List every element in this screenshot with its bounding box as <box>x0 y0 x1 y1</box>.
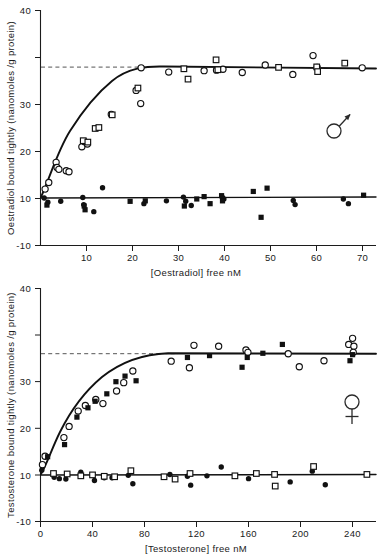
data-point <box>57 476 62 481</box>
x-tick-label: 120 <box>188 528 205 539</box>
data-point <box>201 68 207 74</box>
data-point <box>191 342 197 348</box>
testosterone-chart-svg: 40 30 20 10 -10 0 40 80 120 1 <box>0 280 389 557</box>
data-point <box>56 166 62 172</box>
data-point <box>113 388 119 394</box>
data-point <box>347 358 352 363</box>
data-point <box>213 57 219 63</box>
data-point <box>80 195 85 200</box>
x-tick-label: 240 <box>344 528 361 539</box>
data-point <box>276 65 282 71</box>
data-point <box>51 471 57 477</box>
data-point <box>168 358 174 364</box>
data-point <box>135 85 141 91</box>
x-axis-label: [Oestradiol] free nM <box>151 267 241 278</box>
data-point <box>78 473 84 479</box>
data-point <box>220 198 225 203</box>
data-point <box>259 215 264 220</box>
data-point <box>100 185 105 190</box>
data-point <box>245 355 250 360</box>
data-point <box>44 202 49 207</box>
x-tick-label: 80 <box>139 528 150 539</box>
data-point <box>280 342 285 347</box>
y-tick-label: 40 <box>20 5 31 16</box>
chart-panel-testosterone: 40 30 20 10 -10 0 40 80 120 1 <box>0 280 389 557</box>
data-point <box>239 69 245 75</box>
y-axis-tick-labels: 40 30 20 10 -10 <box>16 5 31 251</box>
data-point <box>100 401 106 407</box>
data-point <box>359 65 365 71</box>
data-point <box>361 193 366 198</box>
data-point <box>143 198 148 203</box>
series-filled-square <box>45 342 355 460</box>
data-point <box>41 195 46 200</box>
data-point <box>350 352 355 357</box>
x-tick-label: 10 <box>81 252 92 263</box>
data-point <box>64 471 70 477</box>
data-point <box>91 209 96 214</box>
data-point <box>202 194 207 199</box>
data-point <box>182 203 187 208</box>
y-axis-label: Testosterone bound tightly (nanomoles /g… <box>5 292 16 518</box>
data-point <box>351 343 357 349</box>
data-point <box>245 349 251 355</box>
x-axis-tick-labels: 0 40 80 120 160 200 240 <box>38 528 361 539</box>
data-point <box>164 198 169 203</box>
series-open-circle <box>39 335 357 467</box>
data-point <box>121 380 127 386</box>
data-point <box>219 464 224 469</box>
data-point <box>239 365 244 370</box>
x-axis-tick-labels: 10 20 30 40 50 60 70 <box>81 252 368 263</box>
axis-lines <box>41 10 377 246</box>
x-tick-label: 20 <box>127 252 138 263</box>
y-tick-label: 30 <box>20 376 31 387</box>
male-sex-symbol <box>327 114 351 138</box>
data-point <box>260 351 265 356</box>
data-point <box>85 139 91 145</box>
x-tick-label: 160 <box>240 528 257 539</box>
data-point <box>310 53 316 59</box>
data-point <box>219 193 224 198</box>
data-point <box>42 186 48 192</box>
data-point <box>113 379 118 384</box>
data-points-group <box>39 335 370 489</box>
data-point <box>207 353 212 358</box>
female-sex-symbol <box>345 395 359 424</box>
data-point <box>189 203 194 208</box>
y-tick-label: 20 <box>20 146 31 157</box>
data-point <box>74 415 79 420</box>
data-point <box>292 202 297 207</box>
baseline-curve <box>41 197 376 198</box>
y-tick-label: 10 <box>20 193 31 204</box>
x-tick-label: 0 <box>38 528 44 539</box>
data-point <box>272 472 278 478</box>
data-point <box>232 473 238 479</box>
data-point <box>185 76 191 82</box>
y-axis-ticks <box>35 289 41 522</box>
data-point <box>342 60 348 66</box>
data-point <box>85 405 90 410</box>
data-point <box>66 169 72 175</box>
data-point <box>181 66 187 72</box>
data-point <box>128 199 133 204</box>
data-point <box>45 454 50 459</box>
data-point <box>346 201 351 206</box>
data-point <box>254 471 260 477</box>
data-point <box>290 71 296 77</box>
data-point <box>186 365 192 371</box>
data-point <box>287 479 292 484</box>
x-tick-label: 40 <box>87 528 98 539</box>
data-point <box>122 374 127 379</box>
data-point <box>66 423 72 429</box>
x-tick-label: 50 <box>265 252 276 263</box>
y-axis-ticks <box>35 11 41 246</box>
data-point <box>96 125 102 131</box>
data-point <box>364 472 370 478</box>
data-point <box>321 358 327 364</box>
data-point <box>246 476 251 481</box>
data-point <box>194 196 199 201</box>
data-point <box>341 196 346 201</box>
y-axis-label: Oestradiol bound tightly (nanomoles /g p… <box>5 21 16 235</box>
data-point <box>315 69 321 75</box>
data-point <box>90 472 96 478</box>
